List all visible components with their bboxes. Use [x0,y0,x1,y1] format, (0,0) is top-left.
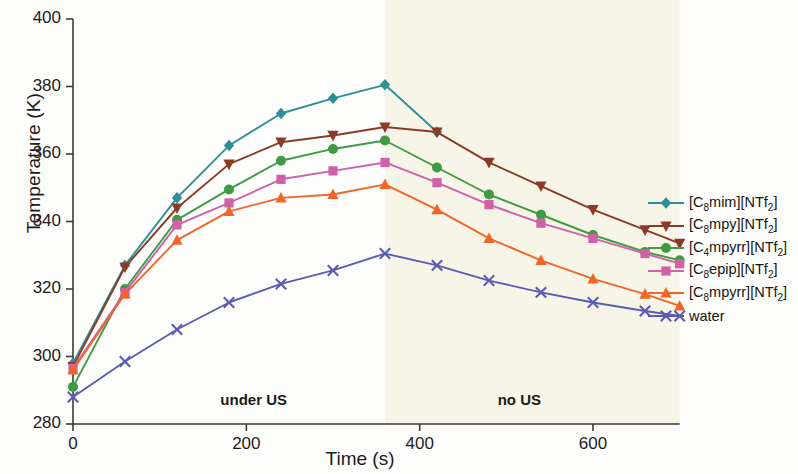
data-point-marker [484,190,494,200]
chart-figure: Temperature (K) Time (s) 280300320340360… [0,0,798,474]
data-point-marker [172,324,182,334]
legend-marker-triangle-down-icon [646,216,686,236]
data-point-marker [588,234,597,243]
legend-item-3: [C8epip][NTf2] [646,260,798,283]
legend-marker-triangle-up-icon [646,283,686,303]
data-point-marker [328,93,338,105]
data-point-marker [328,144,338,154]
x-axis-tick-label: 200 [221,434,271,454]
legend-item-4: [C8mpyrr][NTf2] [646,282,798,305]
data-point-marker [661,243,671,253]
data-point-marker [276,175,285,184]
x-axis-tick-label: 0 [48,434,98,454]
data-point-marker [380,136,390,146]
y-axis-tick-label: 380 [15,76,61,96]
legend-label: [C8mpy][NTf2] [689,216,777,235]
legend-marker-square-icon [646,261,686,281]
y-axis-tick-label: 280 [15,413,61,433]
legend-item-5: water [646,305,798,328]
legend-label: [C8mim][NTf2] [689,194,777,213]
data-point-marker [120,356,130,366]
legend-marker-diamond-icon [646,193,686,213]
legend-label: [C8epip][NTf2] [689,261,778,280]
chart-legend: [C8mim][NTf2][C8mpy][NTf2][C4mpyrr][NTf2… [646,192,798,327]
data-point-marker [328,166,337,175]
data-point-marker [432,178,441,187]
legend-item-2: [C4mpyrr][NTf2] [646,237,798,260]
data-point-marker [536,219,545,228]
x-axis-tick-label: 600 [568,434,618,454]
data-point-marker [536,210,546,220]
y-axis-tick-label: 400 [15,8,61,28]
data-point-marker [224,297,234,307]
legend-label: [C8mpyrr][NTf2] [689,284,787,303]
data-point-marker [432,163,442,173]
data-point-marker [484,200,493,209]
data-point-marker [171,234,182,245]
y-axis-tick-label: 320 [15,278,61,298]
y-axis-tick-label: 360 [15,143,61,163]
y-axis-tick-label: 340 [15,211,61,231]
data-point-marker [68,382,78,392]
legend-label: [C4mpyrr][NTf2] [689,239,787,258]
legend-item-0: [C8mim][NTf2] [646,192,798,215]
legend-item-1: [C8mpy][NTf2] [646,215,798,238]
data-point-marker [380,158,389,167]
data-point-marker [276,156,286,166]
plot-annotation: no US [498,391,541,408]
data-point-marker [661,197,671,209]
legend-marker-circle-icon [646,238,686,258]
plot-annotation: under US [220,391,287,408]
legend-marker-x-icon [646,306,686,326]
data-point-marker [224,184,234,194]
data-point-marker [276,108,286,120]
legend-label: water [689,308,724,324]
y-axis-tick-label: 300 [15,346,61,366]
data-point-marker [661,266,670,275]
data-point-marker [172,220,181,229]
x-axis-tick-label: 400 [395,434,445,454]
